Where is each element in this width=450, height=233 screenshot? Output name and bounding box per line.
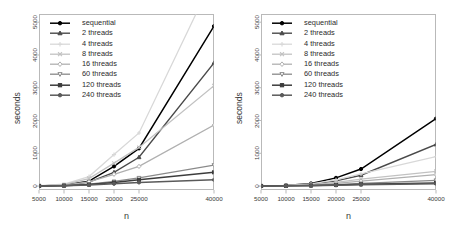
legend-label: 2 threads	[304, 28, 335, 38]
legend-marker-triangle-down-icon	[270, 69, 302, 79]
legend-label: 60 threads	[82, 69, 117, 79]
legend-marker-circle-icon	[48, 18, 80, 28]
y-tick-label: 3000	[31, 75, 38, 101]
legend-marker-cross-icon	[48, 49, 80, 59]
legend-label: 240 threads	[304, 90, 343, 100]
legend-label: 120 threads	[82, 80, 121, 90]
legend-marker-plus-icon	[48, 39, 80, 49]
legend-label: 16 threads	[82, 59, 117, 69]
legend-marker-plus-icon	[270, 39, 302, 49]
legend-marker-diamond-icon	[48, 59, 80, 69]
y-tick-label: 5000	[31, 9, 38, 35]
legend-marker-circle-icon	[270, 18, 302, 28]
legend-label: 240 threads	[82, 90, 121, 100]
legend-label: sequential	[304, 18, 338, 28]
legend-marker-triangle-icon	[48, 28, 80, 38]
legend-label: 4 threads	[304, 39, 335, 49]
legend-label: 4 threads	[82, 39, 113, 49]
legend-marker-triangle-down-icon	[48, 69, 80, 79]
x-tick-label: 25000	[344, 195, 378, 202]
y-tick-label: 1000	[31, 140, 38, 166]
y-tick-label: 1000	[253, 140, 260, 166]
chart-panel-right: 0100020003000400050005000100001500020000…	[222, 0, 444, 233]
legend-label: 16 threads	[304, 59, 339, 69]
legend-marker-square-icon	[270, 80, 302, 90]
y-tick-label: 3000	[253, 75, 260, 101]
legend-marker-diamond-icon	[270, 59, 302, 69]
legend-marker-circle-icon	[48, 90, 80, 100]
y-axis-title: seconds	[12, 92, 22, 124]
y-axis-title: seconds	[234, 92, 244, 124]
legend-label: sequential	[82, 18, 116, 28]
x-axis-title: n	[39, 211, 214, 221]
legend-label: 8 threads	[304, 49, 335, 59]
y-tick-label: 4000	[31, 42, 38, 68]
legend-marker-square-icon	[48, 80, 80, 90]
x-axis-title: n	[261, 211, 436, 221]
x-tick-label: 25000	[122, 195, 156, 202]
y-tick-label: 2000	[31, 108, 38, 134]
legend-marker-circle-icon	[270, 90, 302, 100]
series-line-t2	[261, 144, 436, 185]
y-tick-label: 5000	[253, 9, 260, 35]
legend-marker-cross-icon	[270, 49, 302, 59]
y-tick-label: 4000	[253, 42, 260, 68]
chart-panel-left: 0100020003000400050005000100001500020000…	[0, 0, 222, 233]
x-tick-label: 40000	[419, 195, 450, 202]
legend-label: 2 threads	[82, 28, 113, 38]
legend-label: 60 threads	[304, 69, 339, 79]
series-line-sequential	[261, 119, 436, 186]
y-tick-label: 2000	[253, 108, 260, 134]
legend-label: 8 threads	[82, 49, 113, 59]
legend-label: 120 threads	[304, 80, 343, 90]
legend-marker-triangle-icon	[270, 28, 302, 38]
